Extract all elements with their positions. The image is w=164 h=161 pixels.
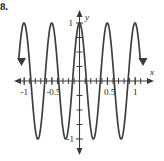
x-axis-right-arrow-icon bbox=[147, 78, 154, 84]
y-axis-label: y bbox=[84, 12, 89, 22]
y-axis-up-arrow-icon bbox=[77, 10, 83, 17]
curve-left-end-arrow-icon bbox=[17, 58, 26, 66]
graph-plot: x y bbox=[0, 0, 164, 161]
y-axis-down-arrow-icon bbox=[77, 148, 83, 155]
curve-right-end-arrow-icon bbox=[139, 58, 148, 66]
y-tick-label-pos-one: 1 bbox=[69, 18, 74, 28]
x-axis-left-arrow-icon bbox=[14, 78, 21, 84]
x-axis-label: x bbox=[149, 67, 154, 77]
figure-container: 8. x y bbox=[0, 0, 164, 161]
x-tick-label-pos-one: 1 bbox=[133, 87, 138, 97]
x-tick-label-pos-half: 0.5 bbox=[104, 87, 116, 97]
x-tick-label-neg-one: -1 bbox=[20, 87, 28, 97]
